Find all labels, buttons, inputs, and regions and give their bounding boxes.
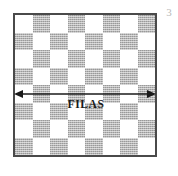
board-cell: [15, 103, 33, 121]
board-cell: [138, 15, 156, 33]
board-cell: [68, 50, 86, 68]
board-cell: [103, 15, 121, 33]
board-cell: [120, 120, 138, 138]
board-cell: [33, 120, 51, 138]
board-cell: [120, 15, 138, 33]
board-cell: [68, 33, 86, 51]
board-cell: [103, 68, 121, 86]
board-cell: [103, 138, 121, 156]
board-cell: [50, 138, 68, 156]
board-cell: [68, 138, 86, 156]
board-cell: [50, 33, 68, 51]
board-cell: [68, 15, 86, 33]
board-cell: [120, 68, 138, 86]
board-cell: [50, 120, 68, 138]
board-cell: [68, 68, 86, 86]
board-cell: [33, 50, 51, 68]
board-cell: [50, 50, 68, 68]
board-cell: [120, 50, 138, 68]
board-cell: [85, 33, 103, 51]
board-cell: [138, 120, 156, 138]
board-cell: [138, 103, 156, 121]
board-cell: [103, 50, 121, 68]
dimension-label: FILAS: [40, 98, 132, 110]
checkerboard-frame: [13, 13, 157, 157]
board-cell: [85, 15, 103, 33]
board-cell: [85, 50, 103, 68]
board-cell: [68, 120, 86, 138]
board-cell: [33, 33, 51, 51]
figure-canvas: 3: [0, 0, 178, 176]
board-cell: [103, 33, 121, 51]
board-cell: [33, 15, 51, 33]
board-cell: [120, 138, 138, 156]
board-cell: [138, 33, 156, 51]
board-cell: [138, 68, 156, 86]
board-cell: [50, 68, 68, 86]
board-cell: [33, 68, 51, 86]
board-cell: [120, 33, 138, 51]
board-cell: [15, 68, 33, 86]
board-cell: [15, 120, 33, 138]
board-cell: [85, 138, 103, 156]
board-cell: [103, 120, 121, 138]
board-cell: [33, 138, 51, 156]
board-cell: [15, 85, 33, 103]
board-cell: [138, 85, 156, 103]
board-cell: [50, 15, 68, 33]
board-cell: [15, 50, 33, 68]
board-cell: [15, 138, 33, 156]
checkerboard-grid: [15, 15, 155, 155]
board-cell: [138, 138, 156, 156]
board-cell: [138, 50, 156, 68]
figure-number-label: 3: [162, 4, 176, 20]
board-cell: [15, 15, 33, 33]
board-cell: [85, 120, 103, 138]
board-cell: [15, 33, 33, 51]
board-cell: [85, 68, 103, 86]
